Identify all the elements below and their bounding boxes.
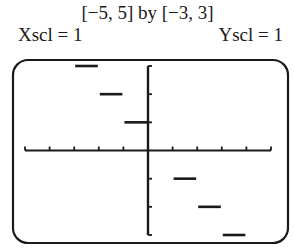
calculator-screen (0, 0, 295, 251)
axes (25, 66, 271, 235)
